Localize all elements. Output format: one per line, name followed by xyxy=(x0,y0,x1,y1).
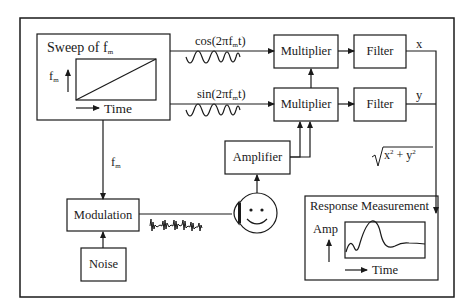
fm-label: fm xyxy=(111,156,121,170)
sweep-title: Sweep of fm xyxy=(47,41,113,56)
sweep-x-label: Time xyxy=(104,102,132,116)
sin-label: sin(2πfmt) xyxy=(197,88,246,102)
multiplier-top-label: Multiplier xyxy=(274,35,338,68)
noise-waveform-icon xyxy=(150,219,202,231)
noise-label: Noise xyxy=(81,248,126,281)
response-curve xyxy=(346,221,425,252)
sin-wave-icon xyxy=(186,104,240,116)
magnitude-label: x2 + y2 xyxy=(384,149,416,161)
x-label: x xyxy=(416,38,422,51)
x-output-line xyxy=(406,51,436,213)
amplifier-label: Amplifier xyxy=(225,141,290,174)
response-x-label: Time xyxy=(372,264,398,277)
filter-top-label: Filter xyxy=(354,35,406,68)
cos-wave-icon xyxy=(186,51,240,63)
modulation-label: Modulation xyxy=(67,199,139,231)
cos-label: cos(2πfmt) xyxy=(195,35,246,49)
response-title: Response Measurement xyxy=(310,200,429,213)
listener-face-icon xyxy=(234,193,277,233)
filter-bottom-label: Filter xyxy=(354,88,406,121)
response-plot xyxy=(345,222,425,258)
response-y-label: Amp xyxy=(313,223,338,236)
y-label: y xyxy=(416,89,422,102)
multiplier-bottom-label: Multiplier xyxy=(274,88,338,121)
sweep-y-label: fm xyxy=(49,70,59,84)
